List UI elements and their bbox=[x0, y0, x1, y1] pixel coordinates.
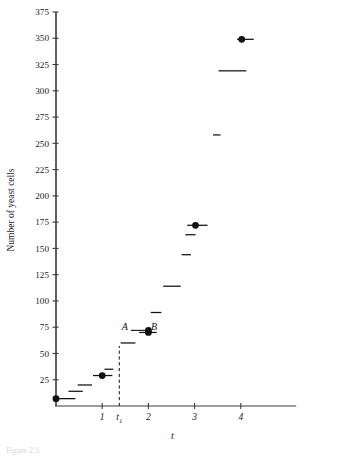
x-tick-label: 2 bbox=[146, 412, 151, 422]
y-tick-label: 150 bbox=[35, 244, 49, 254]
y-tick-label: 300 bbox=[35, 86, 49, 96]
data-point-marker bbox=[53, 395, 60, 402]
y-tick-label: 100 bbox=[35, 296, 49, 306]
y-tick-label: 125 bbox=[35, 270, 49, 280]
y-tick-label: 350 bbox=[35, 33, 49, 43]
chart-plot-area: 2550751001251501752002252502753003253503… bbox=[0, 0, 345, 456]
x-tick-label: 1 bbox=[100, 412, 105, 422]
y-tick-label: 200 bbox=[35, 191, 49, 201]
figure-caption: Figure 2.3 bbox=[6, 446, 39, 455]
y-tick-label: 325 bbox=[35, 60, 49, 70]
y-tick-label: 375 bbox=[35, 7, 49, 17]
y-tick-label: 175 bbox=[35, 217, 49, 227]
y-tick-label: 275 bbox=[35, 112, 49, 122]
axes-group bbox=[55, 12, 296, 406]
secant-label-A: A bbox=[121, 321, 129, 332]
y-tick-label: 75 bbox=[40, 322, 50, 332]
y-tick-label: 225 bbox=[35, 165, 49, 175]
figure-container: Number of yeast cells 255075100125150175… bbox=[0, 0, 345, 456]
secant-point-B bbox=[145, 327, 152, 334]
x-axis-title: t bbox=[0, 430, 345, 441]
data-point-marker bbox=[99, 372, 106, 379]
y-ticks-group: 2550751001251501752002252502753003253503… bbox=[35, 7, 58, 385]
data-point-marker bbox=[238, 36, 245, 43]
x-tick-label-t1-subscript: 1 bbox=[119, 417, 122, 424]
x-tick-label: 3 bbox=[191, 412, 197, 422]
x-tick-label: 4 bbox=[238, 412, 243, 422]
data-series-group bbox=[53, 36, 254, 402]
y-tick-label: 250 bbox=[35, 139, 49, 149]
y-axis-title: Number of yeast cells bbox=[4, 110, 18, 310]
y-axis-title-text: Number of yeast cells bbox=[6, 168, 16, 251]
secant-label-B: B bbox=[151, 321, 157, 332]
y-tick-label: 25 bbox=[40, 375, 50, 385]
y-tick-label: 50 bbox=[40, 349, 50, 359]
x-tick-label-t1: t1 bbox=[116, 412, 122, 424]
data-point-marker bbox=[192, 222, 199, 229]
